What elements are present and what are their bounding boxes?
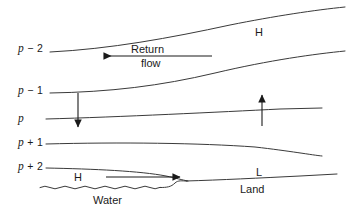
diagram-canvas [0,0,346,219]
isobar-label-p-suffix: − 2 [24,42,43,54]
return-flow-label-line1: Return [131,44,164,55]
isobar-curve-p-plus-2 [46,168,188,181]
isobar-label-p: p [18,113,24,125]
surface-lines [40,174,337,189]
water-surface-wavy-line [40,186,160,189]
return-flow-label-line2: flow [141,58,161,69]
high-pressure-label-upper: H [255,27,263,38]
isobar-label-p-suffix: + 2 [24,160,43,172]
isobar-label-p-minus-1: p − 1 [18,85,43,97]
land-label: Land [240,184,264,195]
water-label: Water [93,195,122,206]
pressure-cross-section-figure: p − 2 p − 1 p p + 1 p + 2 H H L Land Wat… [0,0,346,219]
low-pressure-label: L [256,167,262,178]
isobar-label-p-plus-2: p + 2 [18,161,43,173]
isobar-label-p-suffix: − 1 [24,84,43,96]
isobar-curves [46,7,345,181]
isobar-curve-p-plus-1 [46,143,322,156]
high-pressure-label-lower: H [74,172,82,183]
isobar-curve-p-minus-1 [50,51,345,93]
coastline-step [160,181,187,188]
isobar-label-p-minus-2: p − 2 [18,43,43,55]
isobar-label-p-symbol: p [18,112,24,124]
isobar-label-p-suffix: + 1 [24,136,43,148]
isobar-curve-p-minus-2 [50,7,345,52]
isobar-label-p-plus-1: p + 1 [18,137,43,149]
isobar-curve-p [46,108,322,119]
